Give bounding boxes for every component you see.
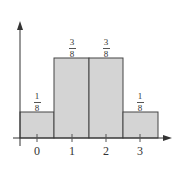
value-label-numerator: 3	[70, 37, 75, 47]
value-label-numerator: 3	[104, 37, 109, 47]
x-tick-label-3: 3	[133, 144, 147, 159]
value-label-numerator: 1	[35, 91, 40, 101]
x-tick-label-2: 2	[99, 144, 113, 159]
y-axis-arrow-icon	[17, 21, 23, 30]
value-label-denominator: 8	[70, 49, 75, 59]
value-label-0: 1 8	[27, 92, 47, 113]
x-tick-label-0: 0	[30, 144, 44, 159]
value-label-denominator: 8	[104, 49, 109, 59]
value-label-1: 3 8	[62, 38, 82, 59]
bar-1	[54, 58, 89, 138]
bar-2	[89, 58, 123, 138]
value-label-2: 3 8	[96, 38, 116, 59]
value-label-numerator: 1	[138, 91, 143, 101]
histogram-plot	[0, 0, 178, 171]
x-axis-arrow-icon	[163, 135, 172, 141]
value-label-3: 1 8	[130, 92, 150, 113]
x-tick-label-1: 1	[65, 144, 79, 159]
value-label-denominator: 8	[138, 103, 143, 113]
value-label-denominator: 8	[35, 103, 40, 113]
